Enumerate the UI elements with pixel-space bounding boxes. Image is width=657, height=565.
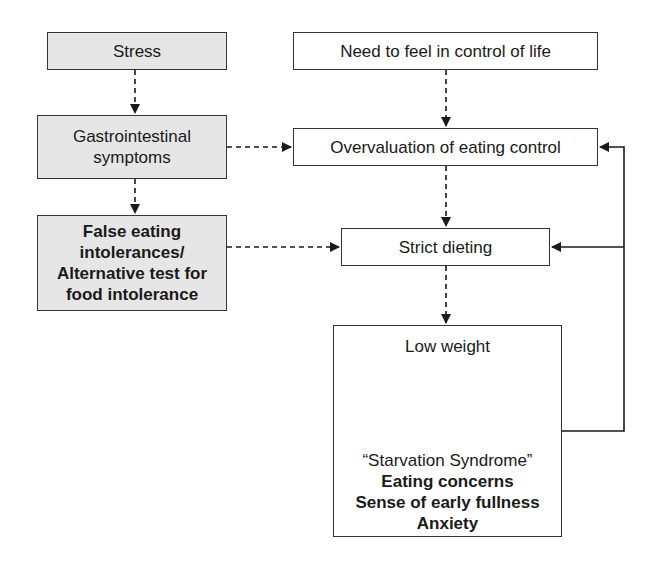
node-false-eating-line-3: Alternative test for (57, 263, 207, 284)
symptom-early-fullness: Sense of early fullness (334, 492, 561, 513)
node-strict-dieting-label: Strict dieting (399, 237, 493, 258)
symptom-anxiety: Anxiety (334, 513, 561, 534)
node-strict-dieting: Strict dieting (341, 228, 550, 266)
feedback-to-overvaluation (562, 147, 624, 431)
starvation-syndrome-group: “Starvation Syndrome” Eating concerns Se… (334, 450, 561, 534)
node-stress: Stress (47, 32, 227, 70)
node-low-weight-label: Low weight (405, 336, 490, 357)
node-stress-label: Stress (113, 41, 161, 62)
starvation-syndrome-title: “Starvation Syndrome” (334, 450, 561, 471)
node-overvaluation-label: Overvaluation of eating control (330, 137, 561, 158)
node-gastro-line-1: Gastrointestinal (73, 126, 191, 147)
symptom-eating-concerns: Eating concerns (334, 471, 561, 492)
node-need-control-label: Need to feel in control of life (340, 41, 551, 62)
node-low-weight-starvation: Low weight “Starvation Syndrome” Eating … (333, 325, 562, 537)
node-need-control: Need to feel in control of life (293, 32, 598, 70)
node-overvaluation: Overvaluation of eating control (293, 128, 598, 166)
node-gastro-line-2: symptoms (93, 147, 170, 168)
node-false-eating-line-4: food intolerance (66, 284, 198, 305)
node-false-eating-line-2: intolerances/ (80, 242, 185, 263)
node-false-eating-intolerances: False eating intolerances/ Alternative t… (37, 215, 227, 311)
node-false-eating-line-1: False eating (83, 221, 181, 242)
node-gastrointestinal-symptoms: Gastrointestinal symptoms (37, 115, 227, 179)
